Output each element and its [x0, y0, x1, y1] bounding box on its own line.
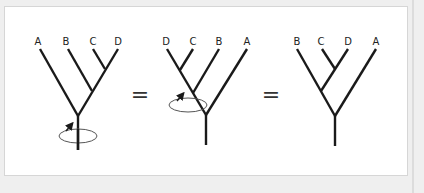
tree-2-label-1: C — [190, 36, 197, 47]
equals-sign-1: = — [131, 82, 149, 107]
tree-1-branch-c — [93, 49, 105, 69]
tree-3-label-2: D — [344, 36, 352, 47]
tree-1-label-2: C — [90, 36, 97, 47]
equals-sign-2: = — [262, 82, 280, 107]
tree-3-branch-c — [322, 49, 335, 69]
tree-2-branch-c — [180, 49, 193, 70]
phylogenetic-tree-rotation-diagram: A B C D = D C B A = B C D A — [0, 0, 424, 193]
tree-3 — [297, 49, 376, 146]
tree-2-label-3: A — [244, 36, 251, 47]
tree-3-label-3: A — [373, 36, 380, 47]
tree-2-label-2: B — [216, 36, 223, 47]
tree-1-label-1: B — [63, 36, 70, 47]
tree-1-label-0: A — [35, 36, 42, 47]
tree-1-label-3: D — [114, 36, 122, 47]
tree-2-branch-b — [193, 49, 219, 93]
tree-2-rotation-arrow-icon — [169, 95, 207, 112]
tree-2-label-0: D — [162, 36, 170, 47]
tree-3-label-1: C — [318, 36, 325, 47]
tree-2 — [167, 49, 247, 145]
tree-1-branch-a — [40, 49, 78, 116]
tree-1-rotation-arrow-icon — [59, 125, 97, 150]
tree-1-branch-b — [68, 49, 92, 91]
tree-3-label-0: B — [294, 36, 301, 47]
